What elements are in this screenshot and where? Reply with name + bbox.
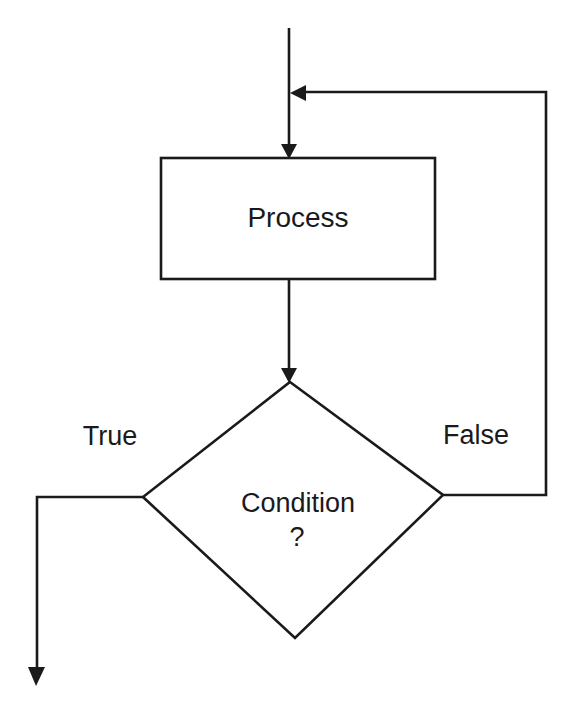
condition-label: Condition <box>241 488 355 518</box>
process-label: Process <box>247 202 348 233</box>
arrow-down-icon <box>281 368 297 383</box>
arrow-down-icon <box>28 667 45 686</box>
arrow-left-icon <box>290 85 306 101</box>
false-label: False <box>443 420 509 450</box>
flowchart-diagram: Process Condition ? True False <box>0 0 581 714</box>
true-exit-connector <box>37 497 143 672</box>
true-label: True <box>83 421 138 451</box>
condition-question-mark: ? <box>289 522 304 552</box>
